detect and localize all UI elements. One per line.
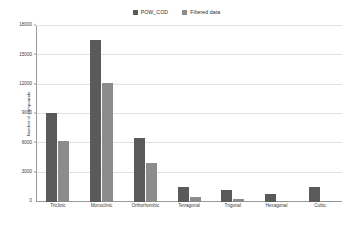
chart-legend: POW_COD Filtered data xyxy=(0,10,353,15)
bar-1 xyxy=(277,201,288,202)
bar-0 xyxy=(46,113,57,202)
bar-groups xyxy=(36,26,342,202)
bar-1 xyxy=(233,199,244,202)
legend-swatch-series-0 xyxy=(133,10,138,15)
x-axis-label: Tetragonal xyxy=(167,204,211,209)
bar-0 xyxy=(265,194,276,202)
x-axis-label: Orthorhombic xyxy=(123,204,167,209)
x-axis-label: Triclinic xyxy=(36,204,80,209)
bar-group xyxy=(36,26,80,202)
bar-group xyxy=(298,26,342,202)
legend-label-series-0: POW_COD xyxy=(141,10,169,15)
bar-group xyxy=(123,26,167,202)
bar-1 xyxy=(321,201,332,202)
bar-group xyxy=(255,26,299,202)
bar-1 xyxy=(146,163,157,202)
x-axis-label: Cubic xyxy=(298,204,342,209)
x-axis-label: Trigonal xyxy=(211,204,255,209)
legend-label-series-1: Filtered data xyxy=(190,10,220,15)
legend-item-series-0: POW_COD xyxy=(133,10,169,15)
y-axis-tick-mark xyxy=(34,142,36,143)
bar-1 xyxy=(102,83,113,202)
bar-1 xyxy=(58,141,69,202)
bar-0 xyxy=(90,40,101,202)
bar-chart: POW_COD Filtered data Number of compound… xyxy=(0,0,353,228)
y-axis-tick-mark xyxy=(34,83,36,84)
x-axis-label: Monoclinic xyxy=(80,204,124,209)
bar-0 xyxy=(178,187,189,202)
y-axis-tick-mark xyxy=(34,54,36,55)
y-axis-tick-mark xyxy=(34,171,36,172)
bar-group xyxy=(80,26,124,202)
x-axis-labels: TriclinicMonoclinicOrthorhombicTetragona… xyxy=(36,204,342,209)
y-axis-tick-mark xyxy=(34,113,36,114)
legend-item-series-1: Filtered data xyxy=(182,10,220,15)
y-axis-tick-mark xyxy=(34,25,36,26)
legend-swatch-series-1 xyxy=(182,10,187,15)
bar-group xyxy=(211,26,255,202)
bar-0 xyxy=(309,187,320,202)
plot-area: 3000600090001200015000180000 xyxy=(36,26,342,202)
bar-1 xyxy=(190,197,201,202)
bar-0 xyxy=(221,190,232,202)
bar-0 xyxy=(134,138,145,202)
x-axis-label: Hexagonal xyxy=(255,204,299,209)
bar-group xyxy=(167,26,211,202)
